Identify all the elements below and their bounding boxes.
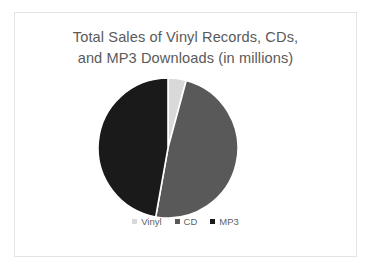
legend-item-cd[interactable]: CD bbox=[175, 216, 198, 227]
legend-swatch-vinyl-icon bbox=[132, 219, 137, 224]
chart-title-line-2: and MP3 Downloads (in millions) bbox=[15, 48, 356, 69]
chart-title-line-1: Total Sales of Vinyl Records, CDs, bbox=[15, 27, 356, 48]
pie-slice-mp3[interactable] bbox=[98, 78, 168, 217]
legend-label-mp3: MP3 bbox=[219, 216, 239, 227]
legend-swatch-mp3-icon bbox=[210, 219, 215, 224]
legend-item-mp3[interactable]: MP3 bbox=[210, 216, 239, 227]
chart-legend: Vinyl CD MP3 bbox=[15, 216, 356, 227]
pie-chart-svg bbox=[97, 77, 239, 219]
slide-frame: Total Sales of Vinyl Records, CDs, and M… bbox=[14, 12, 357, 257]
chart-title: Total Sales of Vinyl Records, CDs, and M… bbox=[15, 27, 356, 69]
legend-swatch-cd-icon bbox=[175, 219, 180, 224]
legend-item-vinyl[interactable]: Vinyl bbox=[132, 216, 161, 227]
legend-label-vinyl: Vinyl bbox=[141, 216, 161, 227]
legend-label-cd: CD bbox=[184, 216, 198, 227]
pie-slice-group bbox=[98, 78, 238, 218]
